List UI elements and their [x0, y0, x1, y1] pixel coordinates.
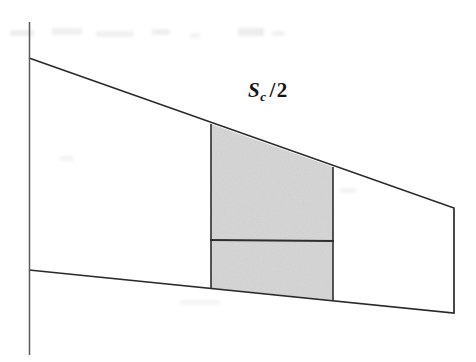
scan-artifact — [96, 31, 134, 37]
scan-artifact — [340, 188, 356, 193]
scan-artifact — [10, 30, 34, 36]
scan-artifact — [272, 31, 284, 36]
scan-artifact — [180, 300, 220, 305]
control-surface-area-label: Sc/2 — [248, 78, 288, 103]
inner-chord-divider-line — [210, 240, 334, 241]
label-subscript-c: c — [260, 89, 266, 104]
scan-artifact — [152, 29, 170, 35]
scan-artifact — [52, 28, 82, 35]
scan-artifact — [238, 28, 264, 36]
scan-artifact — [60, 156, 74, 161]
label-symbol-s: S — [248, 78, 260, 102]
label-slash: / — [266, 78, 276, 102]
wing-planform-diagram — [0, 0, 476, 362]
label-divisor: 2 — [277, 78, 288, 102]
figure-canvas: Sc/2 — [0, 0, 476, 362]
scan-artifact — [190, 33, 200, 38]
